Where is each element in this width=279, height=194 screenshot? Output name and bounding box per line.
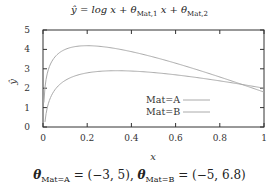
legend: Mat=A Mat=B	[146, 94, 210, 117]
svg-text:1: 1	[261, 133, 267, 143]
caption: θMat=A = (−3, 5), θMat=B = (−5, 6.8)	[0, 168, 279, 184]
svg-text:0.8: 0.8	[213, 133, 228, 143]
legend-label-b: Mat=B	[146, 106, 180, 117]
y-axis-label: ŷ	[7, 79, 18, 86]
plot-area: 00.20.40.60.81012345 ŷ x Mat=A Mat=B	[0, 0, 279, 194]
svg-text:0.6: 0.6	[168, 133, 183, 143]
legend-label-a: Mat=A	[146, 94, 180, 105]
svg-text:3: 3	[24, 64, 30, 74]
svg-text:4: 4	[24, 44, 30, 54]
x-axis-label: x	[150, 151, 156, 162]
svg-text:0: 0	[24, 122, 30, 132]
caption-value: = (−3, 5),	[70, 168, 138, 182]
svg-text:0.2: 0.2	[80, 133, 94, 143]
svg-text:1: 1	[24, 103, 30, 113]
caption-value: = (−5, 6.8)	[174, 168, 245, 182]
svg-text:0.4: 0.4	[124, 133, 139, 143]
caption-sub: Mat=B	[146, 175, 175, 184]
svg-text:2: 2	[24, 83, 30, 93]
svg-text:0: 0	[40, 133, 46, 143]
svg-text:5: 5	[24, 25, 30, 35]
theta-symbol: θ	[138, 168, 146, 182]
caption-sub: Mat=A	[41, 175, 70, 184]
